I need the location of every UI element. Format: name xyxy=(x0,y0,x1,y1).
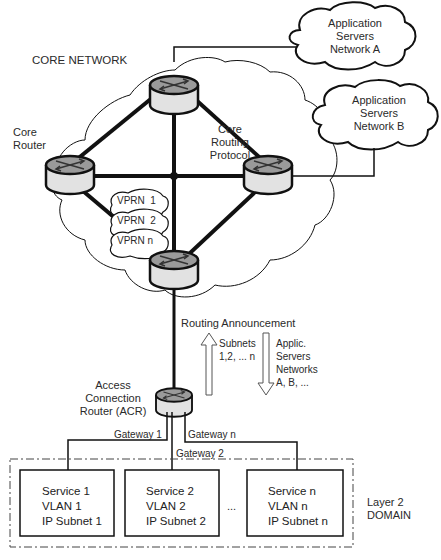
layer2-domain-label: Layer 2 DOMAIN xyxy=(367,496,411,522)
router-bottom xyxy=(150,251,198,289)
network-b-label: Application Servers Network B xyxy=(334,94,424,133)
network-a-label: Application Servers Network A xyxy=(310,17,400,56)
gateway-2-label: Gateway 2 xyxy=(176,447,224,460)
vprn-2-label: VPRN 2 xyxy=(117,214,156,227)
router-left xyxy=(46,156,94,194)
core-network-title: CORE NETWORK xyxy=(32,54,127,67)
router-top xyxy=(150,76,198,114)
applic-label: Applic. Servers Networks A, B, ... xyxy=(276,337,318,389)
service-box-n: Service n VLAN n IP Subnet n xyxy=(268,484,328,529)
arrow-down-icon xyxy=(258,333,274,395)
ellipsis-label: ... xyxy=(227,500,236,513)
vprn-n-label: VPRN n xyxy=(117,234,153,247)
acr-label: Access Connection Router (ACR) xyxy=(78,379,148,418)
vprn-1-label: VPRN 1 xyxy=(117,194,156,207)
subnets-label: Subnets 1,2, ... n xyxy=(219,337,256,363)
service-box-1: Service 1 VLAN 1 IP Subnet 1 xyxy=(42,484,102,529)
network-diagram xyxy=(0,0,441,560)
gateway-n-label: Gateway n xyxy=(188,428,236,441)
service-box-2: Service 2 VLAN 2 IP Subnet 2 xyxy=(146,484,206,529)
arrow-up-icon xyxy=(201,333,217,395)
core-routing-protocol-label: Core Routing Protocol xyxy=(200,123,260,162)
router-acr xyxy=(156,388,192,417)
routing-announcement-label: Routing Announcement xyxy=(181,317,295,330)
gateway-1-label: Gateway 1 xyxy=(114,428,162,441)
core-router-label: Core Router xyxy=(13,126,46,152)
